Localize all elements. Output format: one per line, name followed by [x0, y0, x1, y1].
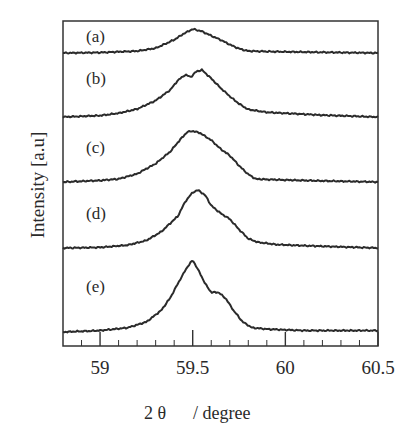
- panel-label-e: (e): [86, 277, 105, 296]
- y-axis-label: Intensity [a.u]: [27, 132, 48, 239]
- x-axis-label-unit: / degree: [193, 403, 250, 423]
- panel-labels: (a)(b)(c)(d)(e): [86, 27, 106, 296]
- panel-label-d: (d): [86, 204, 106, 223]
- curve-d: [63, 190, 378, 249]
- x-tick-label: 60.5: [361, 357, 394, 378]
- panel-label-a: (a): [86, 27, 105, 46]
- panel-label-c: (c): [86, 138, 105, 157]
- curve-a: [63, 29, 378, 54]
- x-tick-labels: 5959.56060.5: [91, 357, 395, 378]
- series-curves: [63, 29, 378, 333]
- curve-c: [63, 131, 378, 183]
- panel-label-b: (b): [86, 69, 106, 88]
- plot-frame: [63, 21, 378, 346]
- xrd-stacked-line-chart: (a)(b)(c)(d)(e) 5959.56060.5 Intensity […: [0, 0, 416, 435]
- x-axis-ticks: [82, 330, 378, 346]
- x-axis-label-symbol: 2 θ: [144, 403, 166, 423]
- curve-e: [63, 261, 378, 333]
- x-tick-label: 60: [276, 357, 295, 378]
- x-tick-label: 59.5: [176, 357, 209, 378]
- curve-b: [63, 69, 378, 117]
- x-tick-label: 59: [91, 357, 110, 378]
